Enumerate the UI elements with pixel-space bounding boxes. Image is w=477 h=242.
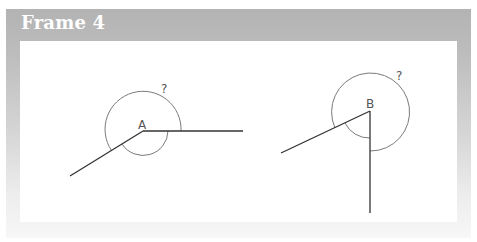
figure-a-unknown-angle-label: ? (161, 82, 167, 96)
figure-b-interior-arc (345, 123, 370, 138)
figure-b: B ? (281, 69, 410, 213)
figure-b-ray-down-left (281, 111, 370, 153)
figure-a: A ? (70, 82, 243, 176)
figure-a-vertex-label: A (138, 118, 147, 132)
figure-a-interior-arc (122, 131, 168, 155)
angle-diagram: A ? B ? (0, 0, 477, 242)
figure-b-unknown-angle-label: ? (396, 69, 402, 83)
figure-b-vertex-label: B (366, 97, 374, 111)
figure-a-ray-down-left (70, 131, 143, 176)
